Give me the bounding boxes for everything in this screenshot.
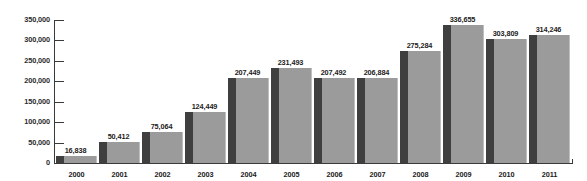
y-axis-tick-mark — [55, 102, 64, 103]
bar[interactable] — [228, 78, 269, 163]
bar[interactable] — [443, 25, 484, 163]
bar-side-shading — [271, 68, 279, 163]
bar-face — [64, 156, 97, 163]
bar[interactable] — [185, 112, 226, 163]
bar[interactable] — [142, 132, 183, 163]
y-axis-tick-mark — [55, 143, 64, 144]
x-axis-tick-label: 2007 — [356, 170, 399, 179]
y-axis-tick-label: 0 — [2, 159, 50, 167]
bar-side-shading — [357, 78, 365, 163]
bar-side-shading — [228, 78, 236, 163]
bar-slot: 207,492 — [313, 0, 356, 163]
y-axis-tick-label: 350,000 — [2, 16, 50, 24]
x-axis-baseline — [54, 163, 573, 164]
bar-slot: 75,064 — [141, 0, 184, 163]
bar-slot: 303,809 — [485, 0, 528, 163]
bar-value-label: 206,884 — [350, 69, 403, 77]
bar-slot: 207,449 — [227, 0, 270, 163]
x-axis-tick-label: 2000 — [55, 170, 98, 179]
bar[interactable] — [99, 142, 140, 163]
bar-slot: 206,884 — [356, 0, 399, 163]
y-axis-tick-label: 50,000 — [2, 139, 50, 147]
bar-value-label: 275,284 — [393, 42, 446, 50]
bar-slot: 231,493 — [270, 0, 313, 163]
bar-side-shading — [486, 39, 494, 163]
bar-face — [150, 132, 183, 163]
y-axis-tick-mark — [55, 122, 64, 123]
bar-side-shading — [400, 51, 408, 163]
y-axis-tick-label: 100,000 — [2, 118, 50, 126]
y-axis-tick-label: 200,000 — [2, 77, 50, 85]
bar-value-label: 314,246 — [522, 26, 575, 34]
bar-face — [451, 25, 484, 163]
bar-side-shading — [142, 132, 150, 163]
bar[interactable] — [529, 35, 570, 163]
bar-face — [408, 51, 441, 163]
bar-side-shading — [99, 142, 107, 163]
y-axis-tick-mark — [55, 40, 64, 41]
bar-value-label: 124,449 — [178, 103, 231, 111]
bar-side-shading — [185, 112, 193, 163]
x-axis-tick-label: 2006 — [313, 170, 356, 179]
bar[interactable] — [400, 51, 441, 163]
x-axis-tick-label: 2004 — [227, 170, 270, 179]
bar-side-shading — [529, 35, 537, 163]
y-axis-tick-mark — [55, 61, 64, 62]
y-axis-tick-label: 150,000 — [2, 98, 50, 106]
bar-face — [322, 78, 355, 163]
bar-slot: 50,412 — [98, 0, 141, 163]
bar-face — [494, 39, 527, 163]
bar-face — [537, 35, 570, 163]
bar-side-shading — [314, 78, 322, 163]
x-axis-tick-label: 2002 — [141, 170, 184, 179]
x-axis-tick-label: 2001 — [98, 170, 141, 179]
bar[interactable] — [314, 78, 355, 163]
bar-value-label: 336,655 — [436, 16, 489, 24]
bar-face — [107, 142, 140, 163]
bar-slot: 275,284 — [399, 0, 442, 163]
bar-side-shading — [56, 156, 64, 163]
y-axis-tick-label: 300,000 — [2, 36, 50, 44]
bar[interactable] — [486, 39, 527, 163]
bar-value-label: 16,838 — [49, 147, 102, 155]
bar-slot: 336,655 — [442, 0, 485, 163]
bar-side-shading — [443, 25, 451, 163]
bar[interactable] — [357, 78, 398, 163]
bar[interactable] — [56, 156, 97, 163]
x-axis-tick-label: 2011 — [528, 170, 571, 179]
y-axis-tick-label: 250,000 — [2, 57, 50, 65]
x-axis-tick-label: 2010 — [485, 170, 528, 179]
x-axis-tick-label: 2009 — [442, 170, 485, 179]
y-axis-tick-labels: 050,000100,000150,000200,000250,000300,0… — [0, 0, 50, 181]
bar-face — [279, 68, 312, 163]
bar-slot: 314,246 — [528, 0, 571, 163]
bar-value-label: 75,064 — [135, 123, 188, 131]
bar-face — [193, 112, 226, 163]
x-axis-tick-label: 2005 — [270, 170, 313, 179]
y-axis-tick-mark — [55, 20, 64, 21]
bar-slot: 124,449 — [184, 0, 227, 163]
bar-value-label: 207,449 — [221, 69, 274, 77]
x-axis-tick-label: 2008 — [399, 170, 442, 179]
bar-value-label: 231,493 — [264, 59, 317, 67]
x-axis-tick-label: 2003 — [184, 170, 227, 179]
plot-area: 16,83850,41275,064124,449207,449231,4932… — [55, 0, 573, 163]
bar-value-label: 50,412 — [92, 133, 145, 141]
bar-chart: 050,000100,000150,000200,000250,000300,0… — [0, 0, 587, 181]
x-axis-tick-labels: 2000200120022003200420052006200720082009… — [55, 170, 573, 181]
bar-face — [236, 78, 269, 163]
y-axis-tick-mark — [55, 163, 64, 164]
bar[interactable] — [271, 68, 312, 163]
bar-face — [365, 78, 398, 163]
y-axis-tick-mark — [55, 81, 64, 82]
